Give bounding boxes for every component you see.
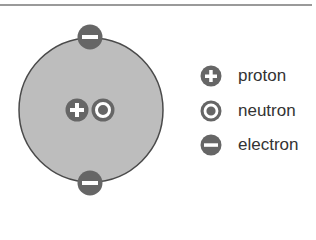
legend-item-neutron: neutron: [198, 99, 316, 125]
electron-bottom-icon: [78, 171, 103, 196]
proton-icon: [66, 99, 89, 122]
legend-label: neutron: [238, 101, 296, 121]
electron-top-icon: [78, 25, 103, 50]
legend-item-proton: proton: [198, 64, 316, 90]
neutron-icon: [92, 99, 115, 122]
legend-item-electron: electron: [198, 133, 316, 159]
legend-label: proton: [238, 66, 286, 86]
atom-shell: [19, 38, 163, 182]
legend-label: electron: [238, 135, 298, 155]
